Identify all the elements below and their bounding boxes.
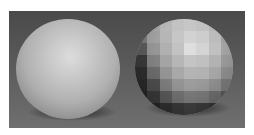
facet [196, 43, 208, 55]
facet [209, 19, 221, 31]
facet [135, 67, 147, 79]
facet [221, 19, 233, 31]
facet [172, 103, 184, 115]
facet [172, 19, 184, 31]
facet [147, 43, 159, 55]
facet [221, 31, 233, 43]
facet [196, 79, 208, 91]
facet [160, 19, 172, 31]
facet-row [135, 91, 233, 103]
facet [135, 43, 147, 55]
facet [172, 67, 184, 79]
facet-row [135, 79, 233, 91]
facet [184, 91, 196, 103]
facet [147, 79, 159, 91]
facet [160, 67, 172, 79]
facet [147, 31, 159, 43]
facet [135, 91, 147, 103]
facet [221, 55, 233, 67]
facet [147, 91, 159, 103]
facet-row [135, 67, 233, 79]
facet [209, 79, 221, 91]
facet [160, 55, 172, 67]
facet [135, 79, 147, 91]
facet [209, 31, 221, 43]
facet [160, 43, 172, 55]
facet [209, 67, 221, 79]
facet-row [135, 31, 233, 43]
facet [196, 19, 208, 31]
facet [184, 67, 196, 79]
render-scene [9, 11, 245, 128]
facet [160, 91, 172, 103]
facet [135, 19, 147, 31]
facet [147, 55, 159, 67]
facet [221, 79, 233, 91]
facet [209, 43, 221, 55]
facet [184, 43, 196, 55]
flat-shaded-sphere [135, 19, 233, 115]
facet [147, 19, 159, 31]
facet [147, 67, 159, 79]
facet [221, 103, 233, 115]
facet [209, 103, 221, 115]
facet [196, 31, 208, 43]
facet [221, 67, 233, 79]
facet [209, 91, 221, 103]
facet [196, 103, 208, 115]
facet-row [135, 19, 233, 31]
facet [172, 43, 184, 55]
facet [221, 43, 233, 55]
smooth-shaded-sphere [16, 19, 120, 119]
facet-row [135, 103, 233, 115]
facet [196, 91, 208, 103]
facet [160, 31, 172, 43]
facet [209, 55, 221, 67]
facet [184, 31, 196, 43]
facet-row [135, 43, 233, 55]
facet [184, 79, 196, 91]
facet [160, 79, 172, 91]
facet [184, 19, 196, 31]
facet [147, 103, 159, 115]
facet [135, 55, 147, 67]
facet [184, 55, 196, 67]
facet-row [135, 55, 233, 67]
facet [172, 91, 184, 103]
facet [184, 103, 196, 115]
facet [196, 55, 208, 67]
facet [172, 79, 184, 91]
facet [172, 31, 184, 43]
facet [160, 103, 172, 115]
facet [135, 103, 147, 115]
facet [196, 67, 208, 79]
facet [135, 31, 147, 43]
facet [172, 55, 184, 67]
sphere-facets [135, 19, 233, 115]
facet [221, 91, 233, 103]
